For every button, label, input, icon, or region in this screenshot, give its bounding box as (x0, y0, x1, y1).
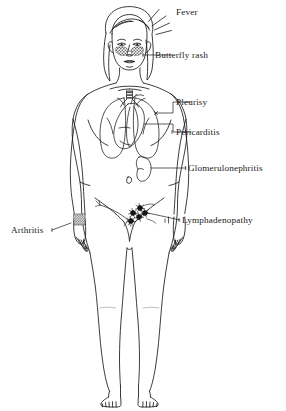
label-pleurisy: Pleurisy (176, 98, 207, 107)
body-diagram-svg (0, 0, 286, 411)
head (108, 15, 151, 71)
label-lymphadenopathy: Lymphadenopathy (182, 216, 253, 225)
lungs-icon (100, 91, 159, 158)
arms (70, 94, 188, 251)
label-glomerulonephritis: Glomerulonephritis (188, 164, 263, 173)
leader-lymphadenopathy (148, 213, 180, 220)
label-fever: Fever (176, 8, 198, 17)
torso-outline (72, 94, 187, 253)
heart-icon (114, 95, 145, 149)
arthritis-wrist-marker-icon (74, 214, 85, 225)
diagram-page: Fever Butterfly rash Pleurisy Pericardit… (0, 0, 286, 411)
kidney-icon (136, 157, 151, 182)
label-arthritis: Arthritis (11, 226, 43, 235)
lymph-node-cluster-icon (96, 201, 157, 227)
leader-arthritis (52, 223, 71, 230)
label-butterfly-rash: Butterfly rash (155, 51, 208, 60)
label-pericarditis: Pericarditis (176, 128, 220, 137)
neck-and-shoulders (88, 68, 171, 94)
legs (90, 248, 169, 407)
